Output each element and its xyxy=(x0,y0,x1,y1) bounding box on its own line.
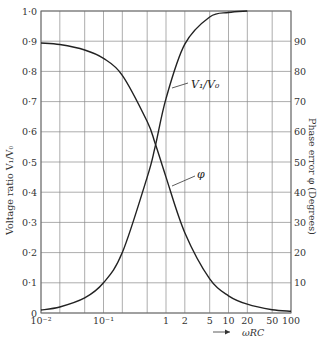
left-tick-label: 0·8 xyxy=(22,66,37,77)
left-axis-title: Voltage ratio V₁/V₀ xyxy=(4,146,15,236)
x-tick-label: 5 xyxy=(207,315,213,326)
right-tick-label: 90 xyxy=(294,36,306,47)
right-tick-label: 50 xyxy=(294,157,306,168)
left-tick-label: 1·0 xyxy=(22,6,37,17)
left-tick-label: 0·1 xyxy=(22,277,37,288)
svg-text:φ: φ xyxy=(197,168,205,181)
left-tick-label: 0·4 xyxy=(22,187,37,198)
right-tick-label: 70 xyxy=(294,96,306,107)
x-tick-label: 50 xyxy=(266,315,278,326)
x-tick-label: 20 xyxy=(241,315,253,326)
right-axis-title: Phase error φ (Degrees) xyxy=(307,118,318,235)
left-tick-label: 0·7 xyxy=(22,96,37,107)
x-tick-label: 2 xyxy=(182,315,188,326)
svg-text:ωRC: ωRC xyxy=(242,327,265,338)
right-tick-label: 30 xyxy=(294,217,306,228)
right-axis-ticks: 102030405060708090 xyxy=(294,36,306,289)
voltage-ratio-curve xyxy=(41,11,247,310)
right-tick-label: 10 xyxy=(294,277,306,288)
left-tick-label: 0·5 xyxy=(22,157,37,168)
left-tick-label: 0·2 xyxy=(22,247,37,258)
annotation-phase: φ xyxy=(172,168,205,186)
grid-lines xyxy=(41,11,291,313)
x-tick-label: 10⁻² xyxy=(31,315,52,326)
left-tick-label: 0·3 xyxy=(22,217,37,228)
x-axis-title: ωRC xyxy=(213,327,265,338)
bode-chart: 00·10·20·30·40·50·60·70·80·91·0 10203040… xyxy=(0,0,321,342)
left-tick-label: 0·6 xyxy=(22,126,37,137)
svg-text:V₁/V₀: V₁/V₀ xyxy=(191,78,220,91)
right-tick-label: 60 xyxy=(294,126,306,137)
right-tick-label: 20 xyxy=(294,247,306,258)
arrowhead-icon xyxy=(225,330,230,335)
x-tick-label: 100 xyxy=(282,315,300,326)
right-tick-label: 40 xyxy=(294,187,306,198)
right-tick-label: 80 xyxy=(294,66,306,77)
x-tick-label: 10⁻¹ xyxy=(93,315,114,326)
x-tick-label: 10 xyxy=(222,315,234,326)
left-axis-ticks: 00·10·20·30·40·50·60·70·80·91·0 xyxy=(22,6,37,319)
annotation-ratio: V₁/V₀ xyxy=(172,78,220,91)
x-tick-label: 1 xyxy=(163,315,169,326)
x-axis-ticks: 10⁻²10⁻¹125102050100 xyxy=(31,315,301,326)
left-tick-label: 0·9 xyxy=(22,36,37,47)
